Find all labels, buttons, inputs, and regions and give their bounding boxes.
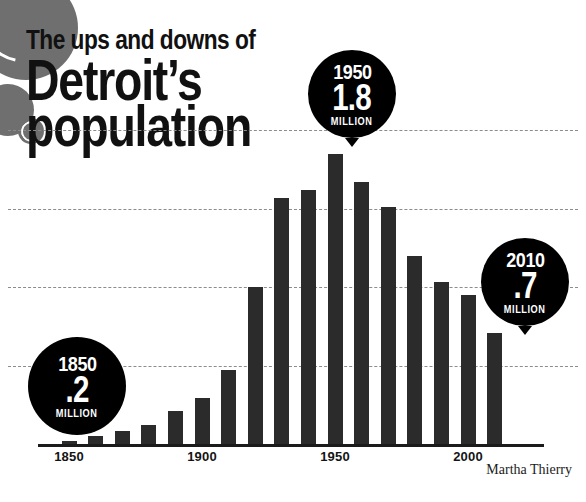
x-tick-1900: 1900 xyxy=(187,449,217,464)
callout-1850-value: .2 xyxy=(66,372,89,408)
bar-1880 xyxy=(141,425,156,444)
bar-1950 xyxy=(328,154,343,444)
bar-1910 xyxy=(221,370,236,444)
bar-1960 xyxy=(354,182,369,444)
x-tick-1950: 1950 xyxy=(320,449,350,464)
bar-1900 xyxy=(195,398,210,444)
callout-1950-bubble: 19501.8MILLION xyxy=(308,50,396,138)
x-tick-1850: 1850 xyxy=(54,449,84,464)
bar-1990 xyxy=(434,282,449,444)
credit-byline: Martha Thierry xyxy=(486,462,572,478)
x-tick-2000: 2000 xyxy=(453,449,483,464)
callout-1850-pointer-icon xyxy=(70,424,84,433)
callout-2010-value: .7 xyxy=(514,268,537,304)
callout-1950-unit: MILLION xyxy=(331,117,373,127)
bar-1970 xyxy=(381,207,396,444)
callout-1950-value: 1.8 xyxy=(333,80,372,116)
callout-1850-unit: MILLION xyxy=(56,409,98,419)
bar-1930 xyxy=(274,198,289,444)
x-axis-line xyxy=(38,444,544,447)
callout-2010-unit: MILLION xyxy=(504,305,546,315)
callout-1850-bubble: 1850.2MILLION xyxy=(28,337,126,435)
infographic-canvas: The ups and downs of Detroit’s populatio… xyxy=(0,0,586,502)
bar-2010 xyxy=(487,333,502,444)
bar-1920 xyxy=(248,287,263,444)
bar-1980 xyxy=(407,256,422,444)
bar-1870 xyxy=(115,431,130,444)
callout-1950-pointer-icon xyxy=(345,138,359,147)
callout-2010-bubble: 2010.7MILLION xyxy=(481,238,569,326)
callout-2010-pointer-icon xyxy=(518,326,532,335)
bar-1940 xyxy=(301,190,316,444)
bar-2000 xyxy=(461,295,476,444)
bar-1860 xyxy=(88,436,103,444)
bar-1890 xyxy=(168,411,183,444)
